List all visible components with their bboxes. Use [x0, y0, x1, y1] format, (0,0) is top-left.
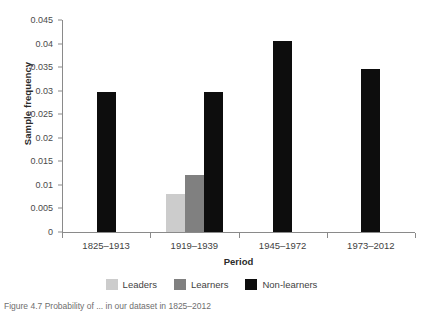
legend-swatch-icon	[174, 279, 186, 290]
x-axis-tick-label: 1973–2012	[347, 240, 395, 251]
x-axis-tick-mark	[415, 233, 416, 238]
bar-series-layer	[62, 20, 415, 232]
bar-learners-1919-1939	[185, 175, 204, 232]
y-axis-tick-label: 0.015	[30, 156, 53, 166]
x-axis-tick-mark	[239, 233, 240, 238]
x-axis-tick-label: 1945–1972	[259, 240, 307, 251]
y-axis-tick-label: 0	[48, 227, 53, 237]
y-axis-tick-label: 0.02	[35, 133, 53, 143]
x-axis-tick-mark	[150, 233, 151, 238]
chart-plot-area: Sample frequency 00.0050.010.0150.020.02…	[0, 6, 423, 246]
y-axis-tick-label: 0.035	[30, 62, 53, 72]
y-axis-tick-label: 0.04	[35, 39, 53, 49]
chart-legend: LeadersLearnersNon-learners	[0, 279, 423, 290]
y-axis-tick-label: 0.03	[35, 86, 53, 96]
x-axis-tick-labels: 1825–19131919–19391945–19721973–2012	[62, 240, 415, 256]
legend-item-leaders: Leaders	[106, 279, 157, 290]
bar-non-learners-1825-1913	[97, 92, 116, 232]
x-axis-label: Period	[62, 256, 415, 267]
y-axis-tick-label: 0.045	[30, 15, 53, 25]
legend-item-non-learners: Non-learners	[245, 279, 317, 290]
figure-caption: Figure 4.7 Probability of ... in our dat…	[4, 301, 423, 311]
legend-swatch-icon	[106, 279, 118, 290]
x-axis-tick-label: 1919–1939	[171, 240, 219, 251]
x-axis-tick-label: 1825–1913	[82, 240, 130, 251]
y-axis-tick-labels: 00.0050.010.0150.020.0250.030.0350.040.0…	[0, 6, 62, 246]
legend-label: Learners	[191, 279, 229, 290]
legend-swatch-icon	[245, 279, 257, 290]
x-axis-tick-mark	[327, 233, 328, 238]
legend-label: Non-learners	[262, 279, 317, 290]
legend-label: Leaders	[123, 279, 157, 290]
figure-container: Sample frequency 00.0050.010.0150.020.02…	[0, 0, 423, 312]
bar-non-learners-1945-1972	[273, 41, 292, 232]
bar-non-learners-1919-1939	[204, 92, 223, 232]
bar-leaders-1919-1939	[166, 194, 185, 232]
x-axis-tick-mark	[62, 233, 63, 238]
y-axis-tick-label: 0.01	[35, 180, 53, 190]
y-axis-tick-label: 0.005	[30, 203, 53, 213]
y-axis-tick-label: 0.025	[30, 109, 53, 119]
legend-item-learners: Learners	[174, 279, 229, 290]
bar-non-learners-1973-2012	[361, 69, 380, 232]
